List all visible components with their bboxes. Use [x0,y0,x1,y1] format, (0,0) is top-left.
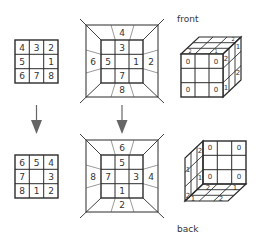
inner-left: 5 [105,57,111,67]
cell-r0c2: 2 [48,43,54,53]
cell-r1c2: 3 [48,172,54,182]
side-top: 2 [198,147,202,155]
outer-right: 4 [148,172,154,182]
top-c: 2 [231,36,234,42]
cell-r2c2: 8 [48,71,54,81]
cell-r1c2: 1 [48,57,54,67]
cell-r1c0: 7 [19,172,25,182]
side-low: 1 [198,174,202,182]
inner-top: 3 [119,43,125,53]
cell-r0c1: 3 [34,43,40,53]
front-label: front [177,14,199,24]
inner-top: 5 [119,158,125,168]
floor-c: 1 [191,195,195,203]
face-tl: 0 [208,144,212,152]
cell-r2c0: 6 [19,71,25,81]
left-bottom-grid: 6 5 4 7 3 8 1 2 [15,155,58,198]
face-tr: 0 [237,144,241,152]
face-br: 0 [214,86,218,94]
face-br: 0 [237,173,241,181]
face-tl: 0 [186,58,190,66]
inner-bottom: 1 [119,186,125,196]
back-cube: 0 0 0 0 2 1 1 2 2 1 1 2 [185,141,246,203]
floor-d: 2 [219,195,223,203]
middle-down-arrow-icon [117,105,128,134]
front-cube: 0 0 0 0 2 1 2 1 2 1 2 [181,36,241,97]
top-a: 2 [188,48,191,54]
top-b: 1 [214,48,217,54]
cell-r0c2: 4 [48,158,54,168]
diagram-canvas: 4 3 2 5 1 6 7 8 6 5 4 7 3 8 1 2 [0,0,262,243]
cell-r2c1: 1 [34,186,40,196]
outer-bottom: 8 [119,85,125,95]
left-top-grid: 4 3 2 5 1 6 7 8 [15,40,58,83]
cell-r2c1: 7 [34,71,40,81]
middle-bottom-frame: 5 7 3 1 6 8 4 2 [80,134,164,218]
outer-bottom: 2 [119,200,125,210]
face-bl: 0 [186,86,190,94]
inner-bottom: 7 [119,71,125,81]
side-mid: 1 [186,166,190,174]
cell-r2c0: 8 [19,186,25,196]
outer-top: 4 [119,28,125,38]
side-top-near: 2 [224,55,228,63]
cell-r1c0: 5 [19,57,25,67]
face-tr: 0 [214,58,218,66]
outer-left: 8 [90,172,96,182]
side-top-far: 1 [236,43,240,51]
cell-r0c0: 6 [19,158,25,168]
back-label: back [177,224,199,234]
outer-top: 6 [119,143,125,153]
side-bottom-near: 1 [224,84,228,92]
floor-a: 2 [206,184,210,192]
middle-top-frame: 3 5 1 7 4 6 2 8 [80,19,164,103]
cell-r0c0: 4 [19,43,25,53]
outer-right: 2 [148,57,154,67]
left-down-arrow-icon [31,105,42,134]
side-mid-far: 2 [236,69,240,77]
inner-right: 1 [133,57,139,67]
cell-r2c2: 2 [48,186,54,196]
outer-left: 6 [90,57,96,67]
face-bl: 0 [208,173,212,181]
cell-r0c1: 5 [34,158,40,168]
inner-right: 3 [133,172,139,182]
floor-b: 1 [233,184,237,192]
side-bottom: 2 [186,192,190,200]
inner-left: 7 [105,172,111,182]
